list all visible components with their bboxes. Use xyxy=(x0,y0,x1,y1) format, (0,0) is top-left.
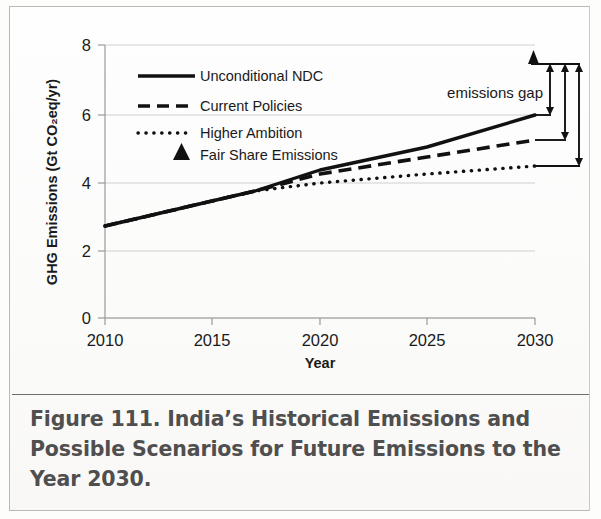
legend-item-higher-ambition: Higher Ambition xyxy=(138,125,302,141)
x-tick-label: 2030 xyxy=(517,331,554,349)
caption-divider xyxy=(12,394,589,395)
y-tick-labels: 8 6 4 2 0 xyxy=(82,36,91,327)
gap-arrow-current-policies xyxy=(561,64,569,141)
figure-caption: Figure 111. India’s Historical Emissions… xyxy=(30,404,575,494)
x-tick-label: 2010 xyxy=(87,331,124,349)
legend-label: Fair Share Emissions xyxy=(200,147,338,163)
legend-item-fair-share-emissions: Fair Share Emissions xyxy=(173,143,338,163)
x-axis-title: Year xyxy=(305,355,336,371)
fair-share-emissions-marker xyxy=(528,50,539,64)
gap-arrow-higher-ambition xyxy=(575,64,583,167)
y-tick-label: 0 xyxy=(82,309,91,327)
x-tick-label: 2025 xyxy=(409,331,446,349)
emissions-line-chart: 8 6 4 2 0 2010 2015 2020 2025 2030 Year … xyxy=(10,8,589,394)
y-axis xyxy=(98,45,105,318)
x-tick-label: 2020 xyxy=(302,331,339,349)
y-tick-label: 6 xyxy=(82,106,91,124)
legend-item-unconditional-ndc: Unconditional NDC xyxy=(138,68,323,84)
emissions-gap-label: emissions gap xyxy=(447,84,543,101)
y-tick-label: 8 xyxy=(82,36,91,54)
figure-page: 8 6 4 2 0 2010 2015 2020 2025 2030 Year … xyxy=(0,0,601,519)
legend-label: Unconditional NDC xyxy=(200,68,323,84)
legend-label: Current Policies xyxy=(200,98,302,114)
gap-arrow-ndc xyxy=(546,64,554,116)
triangle-icon xyxy=(173,143,190,160)
x-tick-label: 2015 xyxy=(194,331,231,349)
x-tick-labels: 2010 2015 2020 2025 2030 xyxy=(87,331,554,349)
legend-item-current-policies: Current Policies xyxy=(138,98,302,114)
y-tick-label: 2 xyxy=(82,242,91,260)
legend-label: Higher Ambition xyxy=(200,125,302,141)
y-axis-title: GHG Emissions (Gt CO₂eq/yr) xyxy=(44,79,60,285)
chart-container: 8 6 4 2 0 2010 2015 2020 2025 2030 Year … xyxy=(10,8,589,394)
y-tick-label: 4 xyxy=(82,174,91,192)
x-axis xyxy=(105,318,535,325)
